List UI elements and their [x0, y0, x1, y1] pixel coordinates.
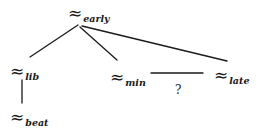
- node-early-subscript: early: [83, 13, 109, 24]
- node-early: ≈early: [68, 5, 110, 22]
- node-late-subscript: late: [229, 75, 249, 86]
- edge-early-min: [80, 27, 117, 60]
- node-beat-subscript: beat: [25, 117, 48, 128]
- edge-early-late: [82, 26, 227, 61]
- node-beat: ≈beat: [10, 109, 48, 126]
- approx-symbol: ≈: [214, 65, 228, 85]
- approx-symbol: ≈: [10, 61, 24, 81]
- unknown-relation-label: ?: [175, 83, 181, 97]
- approx-symbol: ≈: [68, 3, 82, 23]
- edge-early-lib: [30, 25, 78, 57]
- diagram-canvas: ≈early ≈lib ≈beat ≈min ≈late ?: [0, 0, 258, 129]
- approx-symbol: ≈: [110, 67, 124, 87]
- approx-symbol: ≈: [10, 107, 24, 127]
- node-lib: ≈lib: [10, 63, 39, 80]
- node-min: ≈min: [110, 69, 146, 86]
- node-min-subscript: min: [125, 77, 146, 88]
- node-late: ≈late: [214, 67, 249, 84]
- node-lib-subscript: lib: [25, 71, 39, 82]
